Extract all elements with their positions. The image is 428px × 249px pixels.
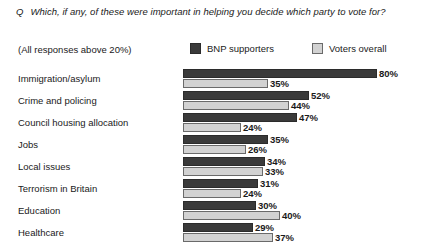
bar-group-bnp: 47% — [183, 113, 297, 122]
category-label: Immigration/asylum — [18, 72, 100, 85]
bar-overall — [183, 167, 263, 176]
category-label: Jobs — [18, 138, 38, 151]
bar-overall — [183, 233, 273, 242]
category-label: Healthcare — [18, 226, 64, 239]
bar-bnp — [183, 113, 297, 122]
bar-value-label: 40% — [280, 209, 301, 222]
chart-row: Immigration/asylum80%35% — [0, 68, 428, 90]
bar-bnp — [183, 201, 256, 210]
responses-threshold-note: (All responses above 20%) — [18, 43, 132, 56]
legend-label-voters-overall: Voters overall — [329, 42, 387, 55]
chart-row: Council housing allocation47%24% — [0, 112, 428, 134]
bar-group-overall: 24% — [183, 189, 241, 198]
bar-group-bnp: 34% — [183, 157, 265, 166]
bar-bnp — [183, 157, 265, 166]
bar-overall — [183, 101, 289, 110]
category-label: Local issues — [18, 160, 70, 173]
bar-value-label: 35% — [268, 77, 289, 90]
bar-group-overall: 35% — [183, 79, 268, 88]
bar-value-label: 24% — [241, 121, 262, 134]
bar-value-label: 80% — [377, 67, 398, 80]
bar-overall — [183, 189, 241, 198]
category-label: Crime and policing — [18, 94, 97, 107]
bar-group-overall: 24% — [183, 123, 241, 132]
chart-row: Healthcare29%37% — [0, 222, 428, 244]
legend-label-bnp-supporters: BNP supporters — [207, 42, 274, 55]
category-label: Council housing allocation — [18, 116, 128, 129]
bar-value-label: 35% — [268, 133, 289, 146]
chart-row: Education30%40% — [0, 200, 428, 222]
bar-group-bnp: 29% — [183, 223, 253, 232]
bar-overall — [183, 145, 246, 154]
bar-value-label: 47% — [297, 111, 318, 124]
category-label: Education — [18, 204, 60, 217]
bar-value-label: 37% — [273, 231, 294, 244]
bar-group-overall: 33% — [183, 167, 263, 176]
bar-overall — [183, 211, 280, 220]
bar-chart: Immigration/asylum80%35%Crime and polici… — [0, 68, 428, 249]
bar-group-overall: 37% — [183, 233, 273, 242]
bar-group-overall: 26% — [183, 145, 246, 154]
question-block: Q Which, if any, of these were important… — [16, 5, 416, 18]
bar-overall — [183, 123, 241, 132]
bar-overall — [183, 79, 268, 88]
bar-value-label: 26% — [246, 143, 267, 156]
chart-row: Jobs35%26% — [0, 134, 428, 156]
bar-group-overall: 44% — [183, 101, 289, 110]
bar-bnp — [183, 223, 253, 232]
legend-item-voters-overall: Voters overall — [312, 42, 387, 55]
chart-row: Terrorism in Britain31%24% — [0, 178, 428, 200]
chart-row: Local issues34%33% — [0, 156, 428, 178]
legend-item-bnp-supporters: BNP supporters — [190, 42, 274, 55]
bar-group-bnp: 30% — [183, 201, 256, 210]
bar-value-label: 52% — [309, 89, 330, 102]
dark-square-swatch-icon — [190, 43, 201, 54]
light-square-swatch-icon — [312, 43, 323, 54]
bar-group-overall: 40% — [183, 211, 280, 220]
legend: (All responses above 20%) BNP supporters… — [18, 42, 418, 57]
question-text: Which, if any, of these were important i… — [30, 5, 385, 18]
category-label: Terrorism in Britain — [18, 182, 97, 195]
question-marker: Q — [16, 5, 23, 18]
chart-row: Crime and policing52%44% — [0, 90, 428, 112]
